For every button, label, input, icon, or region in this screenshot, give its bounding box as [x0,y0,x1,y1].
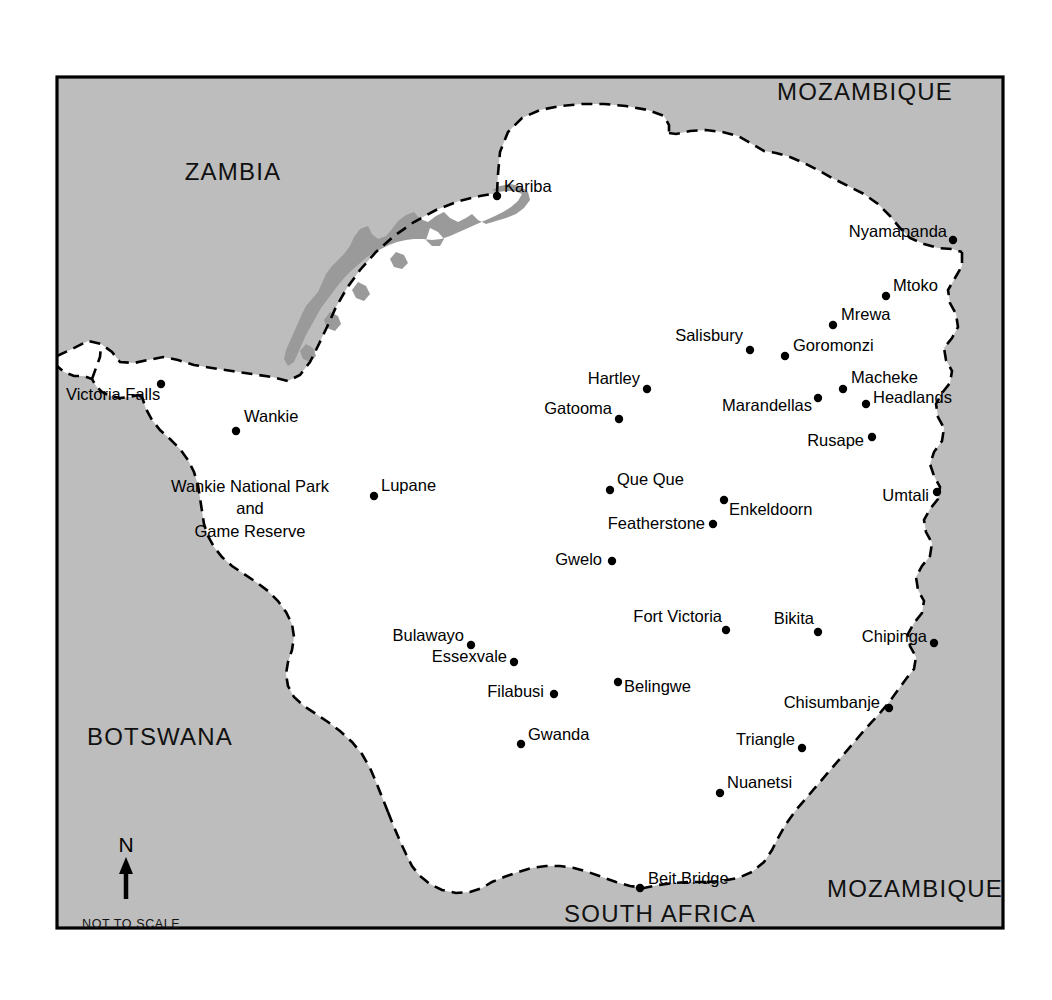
city-label-marandellas: Marandellas [722,396,812,414]
city-dot-salisbury[interactable] [746,346,754,354]
city-label-bikita: Bikita [774,609,815,627]
city-dot-chipinga[interactable] [930,639,938,647]
map-container: ZAMBIA MOZAMBIQUE BOTSWANA MOZAMBIQUE SO… [0,0,1052,1000]
city-dot-nyamapanda[interactable] [949,236,957,244]
city-dot-mtoko[interactable] [882,292,890,300]
city-label-filabusi: Filabusi [487,682,544,700]
city-label-essexvale: Essexvale [432,647,507,665]
country-label-mozambique-north: MOZAMBIQUE [777,78,953,105]
city-label-featherstone: Featherstone [608,514,705,532]
city-label-triangle: Triangle [736,730,795,748]
city-label-que-que: Que Que [617,470,684,488]
city-dot-wankie[interactable] [232,427,240,435]
city-label-bulawayo: Bulawayo [392,626,464,644]
map-figure: ZAMBIA MOZAMBIQUE BOTSWANA MOZAMBIQUE SO… [0,0,1052,1000]
city-dot-triangle[interactable] [798,744,806,752]
city-label-kariba: Kariba [504,177,553,195]
city-label-belingwe: Belingwe [624,677,691,695]
city-label-hartley: Hartley [588,369,641,387]
area-label-wankie-national-park-line1: Wankie National Park [171,477,330,495]
city-label-salisbury: Salisbury [675,326,744,344]
city-dot-chisumbanje[interactable] [885,704,893,712]
country-label-botswana: BOTSWANA [87,723,233,750]
city-label-gwanda: Gwanda [528,725,590,743]
compass-north-label: N [118,833,133,856]
city-label-gatooma: Gatooma [544,399,613,417]
country-label-mozambique-south: MOZAMBIQUE [827,875,1003,902]
city-label-wankie: Wankie [244,407,298,425]
city-dot-bikita[interactable] [814,628,822,636]
area-label-wankie-national-park-line3: Game Reserve [195,522,306,540]
city-label-chipinga: Chipinga [862,627,928,645]
city-dot-gwanda[interactable] [517,740,525,748]
city-label-lupane: Lupane [381,476,436,494]
city-dot-hartley[interactable] [643,385,651,393]
city-label-mtoko: Mtoko [893,276,938,294]
city-label-beit-bridge: Beit Bridge [648,869,729,887]
city-label-headlands: Headlands [873,388,952,406]
city-label-nyamapanda: Nyamapanda [849,222,948,240]
area-label-wankie-national-park-line2: and [236,499,264,517]
city-dot-rusape[interactable] [868,433,876,441]
city-dot-beit-bridge[interactable] [636,884,644,892]
city-label-nuanetsi: Nuanetsi [727,773,792,791]
city-dot-umtali[interactable] [933,488,941,496]
city-label-victoria-falls: Victoria Falls [66,385,160,403]
city-dot-filabusi[interactable] [550,690,558,698]
city-label-gwelo: Gwelo [555,550,602,568]
country-label-zambia: ZAMBIA [185,158,282,185]
city-dot-featherstone[interactable] [709,520,717,528]
city-dot-que-que[interactable] [606,486,614,494]
city-dot-macheke[interactable] [839,385,847,393]
city-dot-belingwe[interactable] [614,678,622,686]
city-dot-nuanetsi[interactable] [716,789,724,797]
city-dot-headlands[interactable] [862,400,870,408]
city-dot-essexvale[interactable] [510,658,518,666]
city-dot-fort-victoria[interactable] [722,626,730,634]
city-dot-gwelo[interactable] [608,557,616,565]
city-dot-mrewa[interactable] [829,321,837,329]
city-label-goromonzi: Goromonzi [793,336,874,354]
city-label-chisumbanje: Chisumbanje [784,693,880,711]
city-dot-lupane[interactable] [370,492,378,500]
city-dot-goromonzi[interactable] [781,352,789,360]
city-dot-marandellas[interactable] [814,394,822,402]
city-label-enkeldoorn: Enkeldoorn [729,500,812,518]
scale-note: NOT TO SCALE [82,917,180,931]
city-label-rusape: Rusape [807,431,864,449]
city-label-umtali: Umtali [882,486,929,504]
city-label-fort-victoria: Fort Victoria [633,607,722,625]
city-dot-enkeldoorn[interactable] [720,496,728,504]
city-label-macheke: Macheke [851,368,918,386]
country-label-south-africa: SOUTH AFRICA [564,900,756,927]
city-dot-kariba[interactable] [493,192,501,200]
city-label-mrewa: Mrewa [841,305,891,323]
city-dot-gatooma[interactable] [615,415,623,423]
